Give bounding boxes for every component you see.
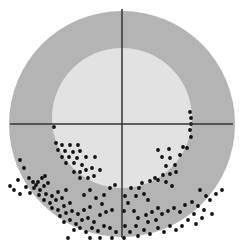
scatter-dot — [44, 192, 48, 196]
scatter-dot — [66, 236, 70, 240]
scatter-dot — [62, 204, 66, 208]
scatter-dot — [78, 170, 82, 174]
scatter-dot — [48, 201, 52, 205]
scatter-dot — [58, 214, 62, 218]
scatter-dot — [168, 172, 172, 176]
scatter-dot — [146, 198, 150, 202]
scatter-dot — [168, 156, 172, 160]
scatter-dot — [31, 180, 35, 184]
scatter-dot — [54, 141, 58, 145]
scatter-dot — [174, 228, 178, 232]
scatter-dot — [32, 186, 36, 190]
scatter-dot — [166, 209, 170, 213]
scatter-dot — [190, 200, 194, 204]
scatter-dot — [63, 149, 67, 153]
scatter-dot — [150, 210, 154, 214]
scatter-dot — [96, 229, 100, 233]
scatter-dot — [100, 202, 104, 206]
scatter-dot — [172, 206, 176, 210]
scatter-dot — [153, 176, 157, 180]
scatter-dot — [18, 192, 22, 196]
scatter-dot — [210, 212, 214, 216]
scatter-dot — [18, 158, 22, 162]
scatter-dot — [60, 143, 64, 147]
scatter-dot — [56, 148, 60, 152]
scatter-dot — [136, 216, 140, 220]
scatter-dot — [160, 212, 164, 216]
scatter-dot — [200, 216, 204, 220]
scatter-dot — [86, 216, 90, 220]
scatter-dot — [178, 210, 182, 214]
scatter-dot — [192, 212, 196, 216]
scatter-dot — [156, 148, 160, 152]
scatter-dot — [12, 188, 16, 192]
scatter-dot — [188, 128, 192, 132]
scatter-dot — [78, 176, 82, 180]
scatter-dot — [60, 196, 64, 200]
scatter-dot — [16, 178, 20, 182]
scatter-dot — [98, 168, 102, 172]
scatter-dot — [78, 149, 82, 153]
scatter-dot — [80, 163, 84, 167]
scatter-dot — [92, 220, 96, 224]
scatter-dot — [80, 218, 84, 222]
scatter-dot — [108, 186, 112, 190]
scatter-dot — [67, 155, 71, 159]
scatter-dot — [64, 188, 68, 192]
scatter-dot — [82, 208, 86, 212]
scatter-dot — [114, 230, 118, 234]
scatter-dot — [92, 174, 96, 178]
scatter-dot — [102, 224, 106, 228]
scatter-dot — [90, 166, 94, 170]
scatter-dot — [168, 224, 172, 228]
scatter-dot — [38, 188, 42, 192]
scatter-dot — [72, 161, 76, 165]
scatter-dot — [173, 163, 177, 167]
scatter-dot — [164, 180, 168, 184]
scatter-dot — [208, 198, 212, 202]
scatter-dot — [76, 212, 80, 216]
scatter-dot — [136, 234, 140, 238]
scatter-dot — [164, 164, 168, 168]
scatter-dot — [167, 147, 171, 151]
scatter-dot — [156, 226, 160, 230]
scatter-dot — [126, 201, 130, 205]
scatter-dot — [22, 166, 26, 170]
scatter-dot — [64, 211, 68, 215]
scatter-dot — [174, 170, 178, 174]
scatter-dot — [108, 226, 112, 230]
scatter-dot — [98, 213, 102, 217]
scatter-dot — [46, 181, 50, 185]
scatter-dot — [134, 224, 138, 228]
scatter-dot — [214, 192, 218, 196]
scatter-dot — [75, 156, 79, 160]
scatter-dot — [204, 194, 208, 198]
scatter-dot — [64, 161, 68, 165]
scatter-dot — [74, 222, 78, 226]
scatter-dot — [88, 188, 92, 192]
scatter-dot — [84, 230, 88, 234]
scatter-dot — [170, 184, 174, 188]
scatter-dot — [104, 210, 108, 214]
scatter-dot — [146, 220, 150, 224]
scatter-dot — [110, 208, 114, 212]
scatter-dot — [90, 226, 94, 230]
scatter-dot — [70, 209, 74, 213]
scatter-dot — [56, 208, 60, 212]
scatter-dot — [42, 184, 46, 188]
scatter-dot — [183, 203, 187, 207]
scatter-dot — [37, 193, 41, 197]
scatter-dot — [185, 146, 189, 150]
scatter-dot — [36, 180, 40, 184]
scatter-dot — [68, 143, 72, 147]
scatter-dot — [162, 230, 166, 234]
scatter-dot — [161, 173, 165, 177]
scatter-dot — [140, 181, 144, 185]
scatter-dot — [178, 153, 182, 157]
scatter-dot — [24, 185, 28, 189]
scatter-dot — [188, 110, 192, 114]
scatter-dot — [160, 155, 164, 159]
scatter-dot — [94, 196, 98, 200]
scatter-dot — [132, 209, 136, 213]
scatter-dot — [186, 218, 190, 222]
